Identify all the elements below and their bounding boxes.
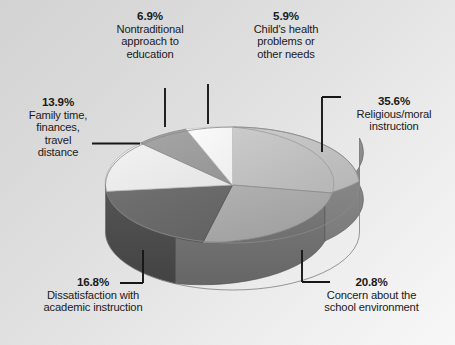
callout-text-nontraditional-line2: approach to [80,35,220,48]
callout-text-academic-line1: Dissatisfaction with [2,289,184,302]
callout-percent-religious: 35.6% [333,95,455,108]
callout-percent-family-time: 13.9% [2,96,114,109]
callout-text-child-health-line2: problems or [222,35,350,48]
callout-label-family-time: 13.9% Family time, finances, travel dist… [2,96,114,159]
callout-text-child-health-line1: Child's health [222,23,350,36]
callout-label-child-health: 5.9% Child's health problems or other ne… [222,10,350,60]
callout-text-family-time-line2: finances, [2,121,114,134]
callout-percent-academic: 16.8% [2,276,184,289]
callout-text-academic-line2: academic instruction [2,301,184,314]
callout-percent-nontraditional: 6.9% [80,10,220,23]
callout-percent-environment: 20.8% [288,276,455,289]
callout-percent-child-health: 5.9% [222,10,350,23]
callout-text-family-time-line1: Family time, [2,109,114,122]
callout-text-family-time-line3: travel [2,134,114,147]
callout-text-religious-line2: instruction [333,120,455,133]
callout-label-nontraditional: 6.9% Nontraditional approach to educatio… [80,10,220,60]
pie-chart-figure: 6.9% Nontraditional approach to educatio… [0,0,455,345]
callout-text-child-health-line3: other needs [222,48,350,61]
callout-label-academic: 16.8% Dissatisfaction with academic inst… [2,276,184,314]
callout-text-nontraditional-line3: education [80,48,220,61]
callout-text-nontraditional-line1: Nontraditional [80,23,220,36]
pie-slice-religious-moral-body [233,127,334,193]
callout-text-religious-line1: Religious/moral [333,108,455,121]
callout-label-religious: 35.6% Religious/moral instruction [333,95,455,133]
callout-text-environment-line1: Concern about the [288,289,455,302]
callout-text-family-time-line4: distance [2,146,114,159]
callout-text-environment-line2: school environment [288,301,455,314]
callout-label-environment: 20.8% Concern about the school environme… [288,276,455,314]
